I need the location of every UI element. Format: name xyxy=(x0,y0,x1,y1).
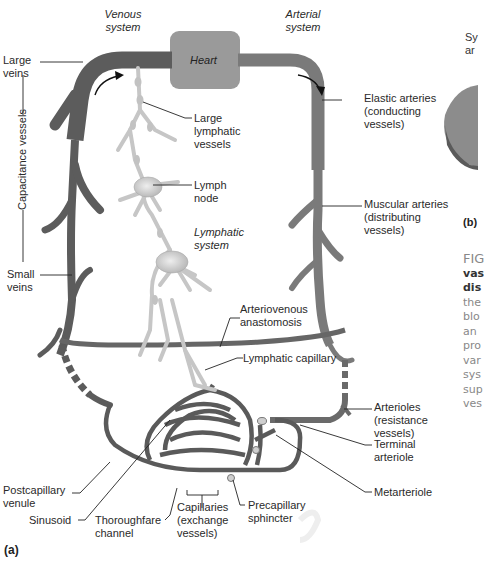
arterial-header-line2: system xyxy=(278,21,328,34)
panel-b-partial-text: Sy ar xyxy=(465,31,478,57)
panel-a-label: (a) xyxy=(4,543,19,557)
lymph-node-lower xyxy=(156,251,188,273)
muscular-arteries-line1: Muscular arteries xyxy=(364,198,448,211)
arteriovenous-anastomosis-label: Arteriovenous anastomosis xyxy=(240,303,308,329)
muscular-arteries-label: Muscular arteries (distributing vessels) xyxy=(364,198,448,237)
caption-line1: FIG xyxy=(463,252,484,267)
arterioles-line2: (resistance xyxy=(374,414,428,427)
panel-b-partial-line2: ar xyxy=(465,44,478,57)
metarteriole-label: Metarteriole xyxy=(374,486,432,499)
small-veins-line2: veins xyxy=(7,281,35,294)
panel-b-disk xyxy=(444,85,478,167)
caption-line3: dis xyxy=(463,281,484,296)
capillaries-label: Capillaries (exchange vessels) xyxy=(177,501,228,540)
terminal-arteriole-label: Terminal arteriole xyxy=(374,438,416,464)
caption-line11: ves xyxy=(463,397,484,412)
venous-header-line1: Venous xyxy=(98,8,148,21)
figure-caption-partial: FIG vas dis the blo an pro var sys sup v… xyxy=(463,252,484,412)
precapillary-sphincter-line2: sphincter xyxy=(248,512,305,525)
lymph-node xyxy=(134,177,162,197)
panel-b-label: (b) xyxy=(463,216,477,228)
arterioles-label: Arterioles (resistance vessels) xyxy=(374,401,428,440)
large-veins-line1: Large xyxy=(3,54,31,67)
arterioles-line1: Arterioles xyxy=(374,401,428,414)
precapillary-sphincter-label: Precapillary sphincter xyxy=(248,499,305,525)
lymph-node-line2: node xyxy=(194,192,227,205)
elastic-arteries-line2: (conducting xyxy=(364,105,436,118)
thoroughfare-line2: channel xyxy=(95,527,161,540)
lymph-node-label: Lymph node xyxy=(194,179,227,205)
heart-label: Heart xyxy=(190,54,217,66)
postcapillary-venule-label: Postcapillary venule xyxy=(3,484,65,510)
large-lymphatic-line1: Large xyxy=(194,112,240,125)
lymphatic-system-header: Lymphatic system xyxy=(194,226,244,252)
panel-b-partial-line1: Sy xyxy=(465,31,478,44)
caption-line3-bold: dis xyxy=(463,281,481,294)
elastic-arteries-label: Elastic arteries (conducting vessels) xyxy=(364,92,436,131)
terminal-arteriole-line1: Terminal xyxy=(374,438,416,451)
elastic-arteries-line1: Elastic arteries xyxy=(364,92,436,105)
caption-line2: vas xyxy=(463,267,484,282)
av-anastomosis-line1: Arteriovenous xyxy=(240,303,308,316)
capillary-bed xyxy=(106,385,300,470)
caption-line10: sup xyxy=(463,383,484,398)
capillaries-line3: vessels) xyxy=(177,527,228,540)
small-veins-line1: Small xyxy=(7,268,35,281)
muscular-arteries-line2: (distributing xyxy=(364,211,448,224)
caption-line6: an xyxy=(463,325,484,340)
large-vein xyxy=(75,60,172,140)
precapillary-sphincter-line1: Precapillary xyxy=(248,499,305,512)
capillaries-line1: Capillaries xyxy=(177,501,228,514)
venous-header-line2: system xyxy=(98,21,148,34)
lymph-node-line1: Lymph xyxy=(194,179,227,192)
postcapillary-venule-line1: Postcapillary xyxy=(3,484,65,497)
muscular-arteries-line3: vessels) xyxy=(364,224,448,237)
precapillary-sphincter xyxy=(258,418,267,425)
large-veins-label: Large veins xyxy=(3,54,31,80)
large-lymphatic-vessels-label: Large lymphatic vessels xyxy=(194,112,240,151)
elastic-arteries-line3: vessels) xyxy=(364,118,436,131)
arteriovenous-anastomosis xyxy=(60,330,345,345)
venous-system-header: Venous system xyxy=(98,8,148,34)
sinusoid-label: Sinusoid xyxy=(29,514,71,527)
av-anastomosis-line2: anastomosis xyxy=(240,316,308,329)
caption-line9: sys xyxy=(463,368,484,383)
caption-line4: the xyxy=(463,296,484,311)
capillaries-line2: (exchange xyxy=(177,514,228,527)
caption-line2-bold: vas xyxy=(463,267,484,280)
caption-line7: pro xyxy=(463,339,484,354)
small-veins-label: Small veins xyxy=(7,268,35,294)
large-lymphatic-line3: vessels xyxy=(194,138,240,151)
postcapillary-venule-line2: venule xyxy=(3,497,65,510)
venous-flow-arrow xyxy=(95,76,118,95)
capacitance-vessels-label: Capacitance vessels xyxy=(16,109,28,210)
caption-line5: blo xyxy=(463,310,484,325)
terminal-arteriole-line2: arteriole xyxy=(374,451,416,464)
thoroughfare-line1: Thoroughfare xyxy=(95,514,161,527)
arterial-system-header: Arterial system xyxy=(278,8,328,34)
caption-line8: var xyxy=(463,354,484,369)
arterial-header-line1: Arterial xyxy=(278,8,328,21)
lymphatic-header-line2: system xyxy=(194,239,244,252)
lymphatic-header-line1: Lymphatic xyxy=(194,226,244,239)
large-veins-line2: veins xyxy=(3,67,31,80)
lymphatic-capillary-label: Lymphatic capillary xyxy=(243,352,336,365)
thoroughfare-channel-label: Thoroughfare channel xyxy=(95,514,161,540)
large-lymphatic-line2: lymphatic xyxy=(194,125,240,138)
